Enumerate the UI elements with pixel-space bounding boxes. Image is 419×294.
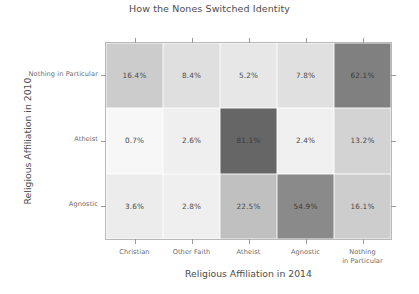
x-axis-title: Religious Affiliation in 2014 xyxy=(105,268,392,279)
page-title: How the Nones Switched Identity xyxy=(0,3,419,14)
plot-area: 16.4%8.4%5.2%7.8%62.1%0.7%2.6%81.1%2.4%1… xyxy=(105,42,392,240)
x-tick-label-line: Nothing xyxy=(328,248,398,257)
heatmap-cell-value: 81.1% xyxy=(237,136,261,145)
heatmap-figure: How the Nones Switched Identity Religiou… xyxy=(0,0,419,294)
heatmap-cell: 5.2% xyxy=(220,43,277,108)
heatmap-cell: 7.8% xyxy=(277,43,334,108)
heatmap-cell: 3.6% xyxy=(106,174,163,239)
x-tick-mark-bottom xyxy=(135,239,136,244)
y-tick-mark-right xyxy=(391,141,396,142)
heatmap-cell-value: 2.8% xyxy=(182,202,201,211)
heatmap-cell-value: 54.9% xyxy=(294,202,318,211)
heatmap-cell: 13.2% xyxy=(334,108,391,173)
heatmap-cell: 2.6% xyxy=(163,108,220,173)
x-tick-mark-top xyxy=(363,38,364,43)
y-tick-mark-right xyxy=(391,75,396,76)
heatmap-cell: 2.8% xyxy=(163,174,220,239)
x-tick-mark-top xyxy=(135,38,136,43)
y-tick-mark-left xyxy=(101,206,106,207)
heatmap-cell-value: 22.5% xyxy=(237,202,261,211)
x-tick-mark-bottom xyxy=(249,239,250,244)
heatmap-cell-value: 7.8% xyxy=(296,71,315,80)
y-tick-label: Agnostic xyxy=(69,200,98,208)
x-tick-mark-bottom xyxy=(192,239,193,244)
heatmap-cell: 16.4% xyxy=(106,43,163,108)
heatmap-cell-value: 2.4% xyxy=(296,136,315,145)
heatmap-cell-value: 13.2% xyxy=(351,136,375,145)
x-tick-mark-top xyxy=(249,38,250,43)
heatmap-cell-value: 16.4% xyxy=(123,71,147,80)
heatmap-cell: 22.5% xyxy=(220,174,277,239)
y-tick-mark-right xyxy=(391,206,396,207)
heatmap-cell-value: 2.6% xyxy=(182,136,201,145)
heatmap-cell-value: 0.7% xyxy=(125,136,144,145)
heatmap-cell-value: 62.1% xyxy=(351,71,375,80)
heatmap-cell-value: 5.2% xyxy=(239,71,258,80)
heatmap-cell-value: 8.4% xyxy=(182,71,201,80)
x-tick-mark-bottom xyxy=(306,239,307,244)
heatmap-grid: 16.4%8.4%5.2%7.8%62.1%0.7%2.6%81.1%2.4%1… xyxy=(106,43,391,239)
heatmap-cell: 2.4% xyxy=(277,108,334,173)
y-tick-mark-left xyxy=(101,141,106,142)
x-tick-mark-bottom xyxy=(363,239,364,244)
x-tick-label: Nothingin Particular xyxy=(328,248,398,265)
x-tick-mark-top xyxy=(306,38,307,43)
x-tick-mark-top xyxy=(192,38,193,43)
heatmap-cell: 54.9% xyxy=(277,174,334,239)
y-tick-label: Atheist xyxy=(74,135,98,143)
heatmap-cell-value: 3.6% xyxy=(125,202,144,211)
x-tick-label-line: in Particular xyxy=(328,257,398,266)
heatmap-cell: 62.1% xyxy=(334,43,391,108)
y-tick-mark-left xyxy=(101,75,106,76)
y-tick-label: Nothing in Particular xyxy=(29,70,98,78)
heatmap-cell: 81.1% xyxy=(220,108,277,173)
heatmap-cell-value: 16.1% xyxy=(351,202,375,211)
heatmap-cell: 0.7% xyxy=(106,108,163,173)
heatmap-cell: 8.4% xyxy=(163,43,220,108)
heatmap-cell: 16.1% xyxy=(334,174,391,239)
